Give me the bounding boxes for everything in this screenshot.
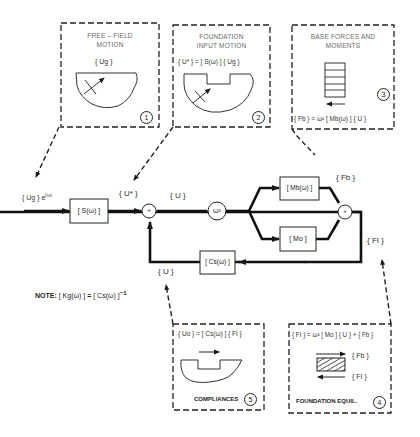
cs-omega-block: [ Cs(ω) ] [200, 259, 235, 266]
note-equals: = [87, 292, 91, 299]
panel3-title-line1: BASE FORCES AND [294, 34, 392, 41]
mb-omega-block: [ Mb(ω) ] [280, 185, 319, 192]
sum-junction-1: + [142, 207, 156, 213]
panel4-equation: { FI } = ω² [ Mo ] { U } + { Fb } [292, 332, 373, 338]
panel1-title-line2: MOTION [63, 42, 157, 49]
fi-signal-label: { FI } [367, 237, 384, 245]
panel1-number-badge: 1 [140, 111, 153, 124]
panel5-number-badge: 5 [244, 393, 257, 406]
panel3-number-badge: 3 [377, 88, 390, 101]
note-lhs: [ Kg(ω) ] [59, 292, 85, 299]
panel3-equation: { Fb } = ω² [ Mb(ω) ] { U } [294, 116, 366, 123]
panel4-force-bottom: { FI } [352, 373, 367, 380]
panel4-force-top: { Fb } [352, 352, 369, 359]
panel2-number-badge: 2 [252, 111, 265, 124]
s-omega-block: [ S(ω) ] [70, 207, 108, 214]
panel5-equation: { Uo } = [ Cs(ω) ] { FI } [178, 331, 242, 338]
panel3-title-line2: MOMENTS [294, 43, 392, 50]
input-signal-label: { Ug } eiωt [22, 193, 52, 201]
fb-signal-label: { Fb } [336, 174, 355, 182]
panel-base-forces [292, 25, 394, 129]
panel4-number-badge: 4 [373, 396, 386, 409]
panel2-title-line2: INPUT MOTION [175, 43, 268, 50]
note-prefix: NOTE: [35, 292, 57, 299]
input-signal-text: { Ug } e [22, 194, 45, 201]
panel5-title: COMPLIANCES [194, 396, 238, 402]
u-star-signal-label: { U* } [119, 190, 138, 198]
panel1-title-line1: FREE – FIELD [63, 33, 157, 40]
input-signal-exponent: iωt [45, 192, 51, 198]
omega-squared-gain: ω² [208, 207, 226, 214]
diagram-canvas [0, 0, 420, 437]
panel4-title: FOUNDATION EQUIL. [296, 398, 357, 404]
panel2-title-line1: FOUNDATION [175, 34, 268, 41]
note-exponent: −1 [120, 290, 127, 296]
sum-junction-2: + [338, 208, 352, 214]
panel1-equation: { Ug } [95, 58, 113, 65]
u-feedback-signal-label: { U } [158, 268, 174, 276]
note-rhs: [ Cs(ω) ] [93, 292, 119, 299]
panel2-equation: { U* } = [ S(ω) ] { Ug } [178, 59, 240, 66]
u-signal-label: { U } [170, 192, 186, 200]
note-formula: NOTE: [ Kg(ω) ] = [ Cs(ω) ]−1 [35, 290, 127, 299]
mo-block: [ Mo ] [280, 235, 316, 242]
